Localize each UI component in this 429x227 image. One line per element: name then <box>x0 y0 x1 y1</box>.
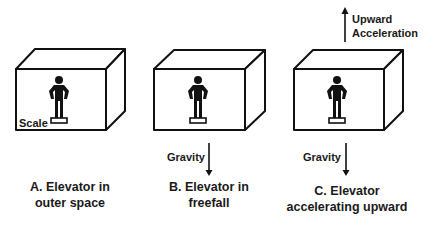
elevator-box-b <box>154 50 265 130</box>
scale-label: Scale <box>19 117 48 129</box>
caption-a-line2: outer space <box>35 196 105 210</box>
elevator-diagram: Scale A. Elevator in outer space Gravity… <box>0 0 429 227</box>
gravity-label-b: Gravity <box>167 151 206 163</box>
panel-c: Upward Acceleration Gravity C. Elevator … <box>287 7 419 214</box>
panel-b: Gravity B. Elevator in freefall <box>154 50 265 210</box>
acceleration-label: Acceleration <box>352 27 418 39</box>
caption-a-line1: A. Elevator in <box>30 180 110 194</box>
upward-label: Upward <box>352 13 392 25</box>
gravity-label-c: Gravity <box>303 151 342 163</box>
caption-b-line1: B. Elevator in <box>169 180 249 194</box>
upward-acceleration-arrow <box>342 7 349 42</box>
gravity-arrow-c <box>343 143 350 176</box>
elevator-box-c <box>294 50 403 130</box>
caption-b-line2: freefall <box>189 196 230 210</box>
caption-c-line1: C. Elevator <box>314 184 379 198</box>
panel-a: Scale A. Elevator in outer space <box>16 49 125 210</box>
gravity-arrow-b <box>206 143 213 176</box>
caption-c-line2: accelerating upward <box>287 200 408 214</box>
